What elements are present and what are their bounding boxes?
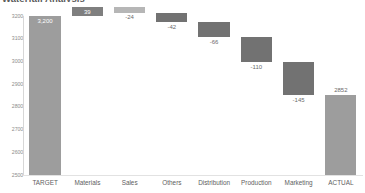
bar-sales[interactable] (114, 7, 145, 12)
bar-value-label: -145 (277, 97, 321, 104)
bar-actual[interactable] (325, 95, 356, 175)
bar-others[interactable] (156, 13, 187, 23)
x-axis-label-sales: Sales (109, 179, 151, 187)
y-axis-tick-label: 2800 (1, 104, 23, 109)
bar-materials[interactable]: 39 (72, 7, 103, 16)
x-axis-label-target: TARGET (24, 179, 66, 187)
y-axis-tick-label: 3000 (1, 59, 23, 64)
y-axis-tick-label: 3100 (1, 36, 23, 41)
bar-value-label: -24 (108, 14, 152, 21)
y-axis-tick-label: 2900 (1, 82, 23, 87)
bar-value-label: 2852 (319, 87, 363, 94)
y-axis-tick-label: 2700 (1, 127, 23, 132)
bar-value-label: -66 (192, 39, 236, 46)
bar-value-label: 3,200 (29, 18, 60, 25)
bar-target[interactable]: 3,200 (29, 16, 60, 175)
y-axis-tick-label: 2600 (1, 150, 23, 155)
x-axis-label-marketing: Marketing (278, 179, 320, 187)
x-axis-line (23, 175, 363, 176)
bar-value-label: -42 (150, 24, 194, 31)
bar-marketing[interactable] (283, 62, 314, 95)
bar-value-label: 39 (72, 9, 103, 16)
x-axis-label-others: Others (151, 179, 193, 187)
y-axis-tick-label: 2500 (1, 173, 23, 178)
x-axis-label-actual: ACTUAL (320, 179, 362, 187)
waterfall-chart: Waterfall Analysis 320031003000290028002… (0, 0, 365, 193)
y-axis: 32003100300029002800270026002500 (0, 0, 23, 193)
bar-production[interactable] (241, 37, 272, 62)
bar-distribution[interactable] (198, 22, 229, 37)
x-axis-label-materials: Materials (66, 179, 108, 187)
x-axis-label-production: Production (235, 179, 277, 187)
bar-value-label: -110 (234, 64, 278, 71)
y-axis-tick-label: 3200 (1, 14, 23, 19)
x-axis-label-distribution: Distribution (193, 179, 235, 187)
